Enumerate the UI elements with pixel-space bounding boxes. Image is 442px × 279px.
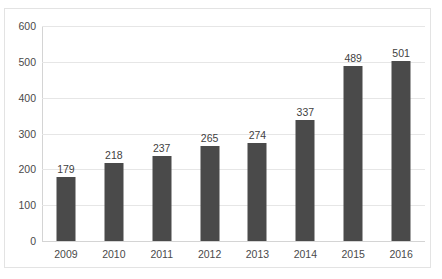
x-axis-tick-label: 2012 <box>198 248 221 260</box>
bar[interactable] <box>56 177 75 241</box>
clipped-chart-title <box>3 0 93 6</box>
bar-group: 2372011 <box>138 26 186 241</box>
bar-value-label: 489 <box>344 52 362 64</box>
plot-area: 0100200300400500600 17920092182010237201… <box>42 26 425 241</box>
x-axis-tick-label: 2011 <box>150 248 173 260</box>
bar-value-label: 237 <box>153 142 171 154</box>
bar-group: 2742013 <box>234 26 282 241</box>
bar[interactable] <box>248 143 267 241</box>
bar[interactable] <box>392 61 411 241</box>
bar-group: 5012016 <box>377 26 425 241</box>
y-axis-tick-label: 500 <box>18 56 36 68</box>
bar[interactable] <box>104 163 123 241</box>
bar-group: 1792009 <box>42 26 90 241</box>
bar[interactable] <box>296 120 315 241</box>
y-axis-tick-label: 400 <box>18 92 36 104</box>
bar-value-label: 179 <box>57 163 75 175</box>
bar-value-label: 274 <box>249 129 267 141</box>
bar[interactable] <box>344 66 363 241</box>
y-axis-tick-label: 100 <box>18 199 36 211</box>
y-axis-tick-label: 200 <box>18 163 36 175</box>
bar[interactable] <box>200 146 219 241</box>
y-axis-tick-label: 600 <box>18 20 36 32</box>
x-axis-tick-label: 2015 <box>342 248 365 260</box>
bar[interactable] <box>152 156 171 241</box>
bar-group: 2652012 <box>186 26 234 241</box>
y-axis-tick-label: 0 <box>30 235 36 247</box>
bar-group: 4892015 <box>329 26 377 241</box>
bar-value-label: 501 <box>392 47 410 59</box>
x-axis-tick-label: 2009 <box>54 248 77 260</box>
x-axis-tick-label: 2016 <box>389 248 412 260</box>
x-axis-tick-label: 2010 <box>102 248 125 260</box>
bar-value-label: 337 <box>297 106 315 118</box>
bar-group: 3372014 <box>281 26 329 241</box>
y-axis-tick-label: 300 <box>18 128 36 140</box>
gridline <box>42 241 425 242</box>
bar-value-label: 265 <box>201 132 219 144</box>
chart-frame: 0100200300400500600 17920092182010237201… <box>4 8 431 268</box>
bar-group: 2182010 <box>90 26 138 241</box>
x-axis-tick-label: 2014 <box>294 248 317 260</box>
bar-value-label: 218 <box>105 149 123 161</box>
x-axis-tick-label: 2013 <box>246 248 269 260</box>
